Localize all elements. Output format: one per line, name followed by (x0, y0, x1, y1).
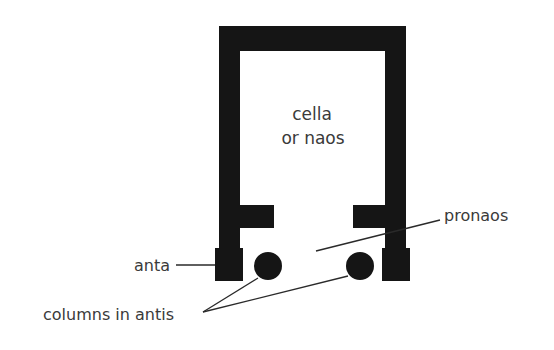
column-leader-right (203, 276, 348, 312)
pronaos-label: pronaos (444, 206, 508, 225)
right-side-wall (385, 26, 406, 250)
cella-label-line1: cella (292, 104, 332, 124)
right-anta (382, 248, 410, 281)
left-door-stub (240, 205, 274, 228)
temple-plan-diagram: cella or naos pronaos anta columns in an… (0, 0, 554, 350)
right-column (346, 252, 374, 280)
right-door-stub (353, 205, 385, 228)
cella-label-line2: or naos (281, 128, 344, 148)
left-column (254, 252, 282, 280)
column-leader-left (203, 278, 258, 312)
back-wall (219, 26, 406, 51)
cella-walls (215, 26, 410, 281)
left-anta (215, 248, 243, 281)
columns-label: columns in antis (43, 305, 174, 324)
left-side-wall (219, 26, 240, 250)
anta-label: anta (134, 256, 170, 275)
